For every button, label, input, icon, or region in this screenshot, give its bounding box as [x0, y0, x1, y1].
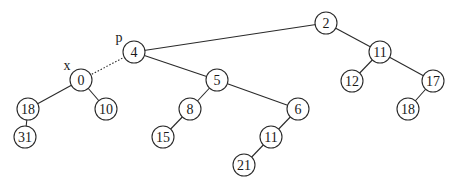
edge-5-to-6: [217, 80, 298, 109]
node-label: 4: [131, 45, 138, 60]
node-label: 10: [99, 102, 113, 117]
tree-node-18: 18: [397, 98, 419, 120]
tree-node-11: 11: [260, 126, 282, 148]
tree-diagram: 24110512171810861831151121 px: [0, 0, 458, 187]
tree-node-2: 2: [315, 12, 337, 34]
node-label: 8: [187, 102, 194, 117]
node-label: 11: [373, 45, 386, 60]
tree-node-0: 0: [70, 69, 92, 91]
tree-node-8: 8: [179, 98, 201, 120]
node-label: 21: [237, 158, 251, 173]
node-label: 11: [264, 130, 277, 145]
pointer-label-p: p: [116, 30, 123, 45]
node-label: 31: [18, 130, 32, 145]
edge-2-to-4: [134, 23, 326, 52]
tree-node-11: 11: [369, 41, 391, 63]
tree-node-31: 31: [14, 126, 36, 148]
tree-node-15: 15: [152, 126, 174, 148]
tree-node-6: 6: [287, 98, 309, 120]
node-label: 0: [78, 73, 85, 88]
pointer-labels-layer: px: [64, 30, 123, 73]
edge-4-to-5: [134, 52, 217, 80]
nodes-layer: 24110512171810861831151121: [14, 12, 444, 176]
tree-node-4: 4: [123, 41, 145, 63]
node-label: 5: [214, 73, 221, 88]
tree-node-12: 12: [341, 70, 363, 92]
pointer-label-x: x: [64, 58, 71, 73]
tree-node-21: 21: [233, 154, 255, 176]
node-label: 2: [323, 16, 330, 31]
tree-node-10: 10: [95, 98, 117, 120]
node-label: 18: [401, 102, 415, 117]
tree-node-18: 18: [17, 98, 39, 120]
node-label: 17: [426, 74, 440, 89]
tree-node-17: 17: [422, 70, 444, 92]
tree-node-5: 5: [206, 69, 228, 91]
node-label: 18: [21, 102, 35, 117]
node-label: 15: [156, 130, 170, 145]
node-label: 12: [345, 74, 359, 89]
node-label: 6: [295, 102, 302, 117]
